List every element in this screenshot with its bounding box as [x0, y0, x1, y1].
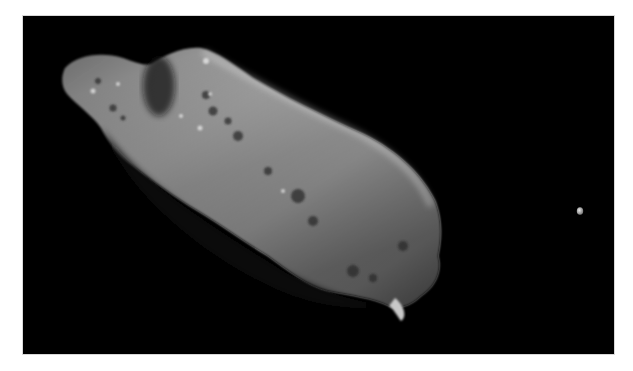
- moon: [577, 207, 583, 215]
- asteroid: [62, 48, 440, 321]
- space-photo: [23, 16, 614, 354]
- asteroid-illustration: [23, 16, 614, 354]
